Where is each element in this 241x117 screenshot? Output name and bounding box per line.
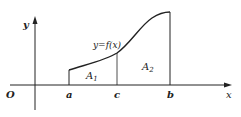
- x-axis: [10, 83, 232, 88]
- curve-label: y=f(x): [92, 40, 122, 50]
- point-b-label: b: [167, 89, 174, 100]
- region-a1-label: A1: [85, 70, 98, 83]
- area-diagram: y O a c b x y=f(x) A1 A2: [0, 0, 241, 117]
- y-axis-arrow-icon: [33, 16, 38, 24]
- region-a2-label: A2: [141, 61, 154, 74]
- y-axis-label: y: [22, 19, 30, 30]
- origin-label: O: [6, 89, 15, 100]
- y-axis: [33, 16, 38, 110]
- x-axis-label: x: [226, 89, 232, 100]
- point-a-label: a: [66, 89, 72, 100]
- point-c-label: c: [114, 89, 120, 100]
- x-axis-arrow-icon: [224, 83, 232, 88]
